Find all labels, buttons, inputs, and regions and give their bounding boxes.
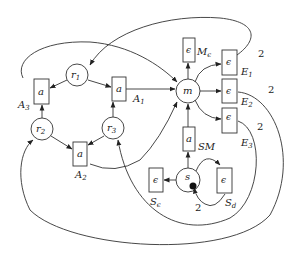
weight-E1: 2 bbox=[258, 48, 264, 59]
weight-E2: 2 bbox=[268, 84, 274, 95]
name-SM: SM bbox=[198, 141, 216, 152]
inner-A1: a bbox=[116, 83, 122, 94]
label-m: m bbox=[183, 85, 192, 96]
name-E1: E1 bbox=[240, 66, 253, 79]
name-Sd: Sd bbox=[225, 197, 237, 210]
inner-Se: ϵ bbox=[153, 175, 158, 185]
label-r3: r3 bbox=[107, 122, 117, 135]
name-Me: Mϵ bbox=[196, 46, 211, 59]
label-r1: r1 bbox=[71, 69, 80, 82]
name-A1: A1 bbox=[132, 93, 145, 106]
token bbox=[190, 183, 197, 190]
inner-E1: ϵ bbox=[226, 57, 231, 67]
name-A3: A3 bbox=[17, 99, 30, 112]
label-r2: r2 bbox=[36, 123, 46, 136]
inner-SM: a bbox=[186, 133, 192, 144]
name-E2: E2 bbox=[240, 96, 253, 109]
weight-E3: 2 bbox=[257, 121, 263, 132]
inner-A2: a bbox=[77, 148, 83, 159]
inner-E2: ϵ bbox=[226, 86, 231, 96]
name-A2: A2 bbox=[74, 169, 87, 182]
inner-Sd: ϵ bbox=[221, 175, 226, 185]
label-s: s bbox=[185, 171, 190, 182]
arcs bbox=[21, 17, 284, 244]
inner-A3: a bbox=[38, 86, 44, 97]
name-E3: E3 bbox=[240, 137, 253, 150]
inner-E3: ϵ bbox=[226, 112, 231, 122]
inner-Me: ϵ bbox=[186, 45, 191, 55]
weight-Sd: 2 bbox=[195, 202, 201, 213]
petri-net-diagram: r1 r2 r3 m s a a a a ϵ ϵ ϵ ϵ ϵ ϵ A3 A1 A… bbox=[0, 0, 300, 259]
